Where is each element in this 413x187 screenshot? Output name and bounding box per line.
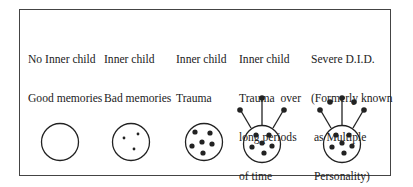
stage-5-spoke-right <box>353 111 363 128</box>
stage-2-circle-icon <box>113 124 150 161</box>
stage-4-spoke-left <box>241 111 251 128</box>
stage-1-circle-icon <box>42 124 79 161</box>
stage-5-spoke-left <box>321 111 331 128</box>
figures <box>0 0 413 187</box>
stage-4-spoke-right <box>273 111 283 128</box>
